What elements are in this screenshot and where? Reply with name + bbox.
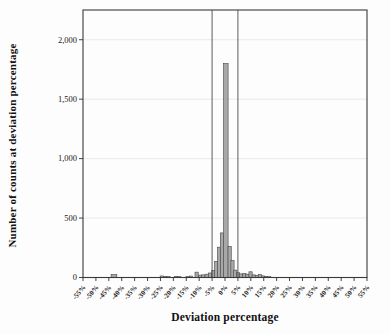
- histogram-bar: [220, 233, 223, 278]
- x-tick-label: -15%: [174, 284, 191, 302]
- x-axis-title: Deviation percentage: [105, 311, 345, 323]
- y-tick-label: 2,000: [58, 35, 77, 45]
- x-tick-label: 15%: [253, 284, 268, 300]
- x-tick-label: 35%: [305, 284, 320, 300]
- x-tick-label: 10%: [240, 284, 255, 300]
- histogram-bar: [208, 273, 211, 278]
- histogram-bar: [243, 273, 246, 277]
- histogram-figure: Number of counts at deviation percentage…: [0, 0, 390, 334]
- x-tick-label: 20%: [266, 284, 281, 300]
- x-tick-label: -5%: [202, 284, 216, 299]
- x-tick-label: -25%: [148, 284, 165, 302]
- y-tick-label: 1,000: [58, 153, 77, 163]
- x-tick-label: -45%: [97, 284, 114, 302]
- x-tick-label: 0%: [217, 284, 230, 297]
- y-tick-label: 1,500: [58, 94, 77, 104]
- x-tick-label: 40%: [318, 284, 333, 300]
- x-tick-label: -30%: [135, 284, 152, 302]
- y-tick-label: 500: [64, 213, 77, 223]
- histogram-bar: [249, 272, 252, 278]
- histogram-bar: [223, 64, 228, 278]
- x-tick-label: -50%: [84, 284, 101, 302]
- histogram-chart: -55%-50%-45%-40%-35%-30%-25%-20%-15%-10%…: [0, 0, 390, 334]
- x-tick-label: -55%: [71, 284, 88, 302]
- x-tick-label: 45%: [331, 284, 346, 300]
- x-tick-label: 50%: [343, 284, 358, 300]
- x-tick-label: -20%: [161, 284, 178, 302]
- x-tick-label: 30%: [292, 284, 307, 300]
- x-tick-label: 55%: [356, 284, 371, 300]
- histogram-bar: [195, 272, 198, 277]
- x-tick-label: 25%: [279, 284, 294, 300]
- x-tick-label: -40%: [110, 284, 127, 302]
- x-tick-label: -35%: [123, 284, 140, 302]
- y-tick-label: 0: [73, 272, 77, 282]
- x-tick-label: -10%: [187, 284, 204, 302]
